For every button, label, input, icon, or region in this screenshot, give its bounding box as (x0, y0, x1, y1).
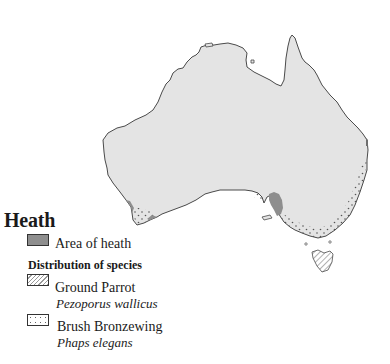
distribution-heading: Distribution of species (28, 258, 142, 273)
ground-parrot-latin: Pezoporus wallicus (56, 296, 157, 312)
king-island (305, 243, 307, 245)
legend-title: Heath (4, 209, 55, 232)
area-of-heath-label: Area of heath (55, 236, 131, 252)
kangaroo-island (262, 215, 272, 220)
map-legend: Heath Area of heath Distribution of spec… (0, 0, 200, 364)
ground-parrot-label: Ground Parrot (55, 280, 136, 296)
brush-bronzewing-swatch (27, 314, 49, 326)
melville-island (205, 43, 213, 47)
ground-parrot-swatch (27, 274, 49, 286)
brush-bronzewing-latin: Phaps elegans (57, 335, 132, 351)
tasmania (312, 250, 333, 272)
heath-swatch (27, 234, 49, 246)
brush-bronzewing-label: Brush Bronzewing (57, 319, 162, 335)
flinders-island (329, 241, 331, 243)
groote-eylandt (251, 60, 254, 63)
heath-area-qld (366, 138, 368, 146)
